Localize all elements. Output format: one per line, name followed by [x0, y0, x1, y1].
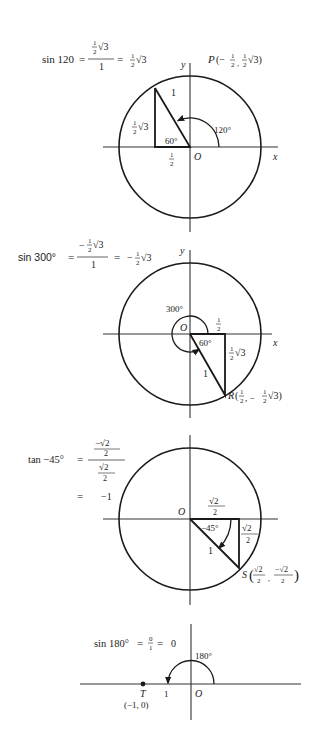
num-frac-top: 1	[93, 39, 97, 47]
angle-arc-120	[178, 118, 219, 147]
svg-text:=: =	[114, 251, 120, 263]
result-frac-bot: 2	[131, 61, 135, 69]
svg-text:1: 1	[230, 345, 234, 353]
svg-text:(−: (−	[216, 54, 225, 66]
svg-text:2: 2	[217, 325, 221, 333]
svg-text:=: =	[68, 251, 74, 263]
formula-eq2: =	[117, 53, 123, 65]
svg-text:,: ,	[237, 59, 239, 68]
result-rad: √3	[136, 54, 147, 65]
diagram-tan-45: tan −45° = −√2 2 √2 2 = −1 O √2 2 √2 2 −…	[28, 435, 299, 605]
angle-arc-neg45	[219, 519, 231, 548]
point-coords: (−1, 0)	[124, 700, 149, 710]
point-label-P: P (− 1 2 , 1 2 √3)	[207, 52, 262, 69]
svg-text:R: R	[227, 390, 234, 401]
svg-text:2: 2	[213, 508, 217, 517]
svg-text:√2: √2	[254, 565, 262, 574]
num-frac-bot: 2	[93, 48, 97, 56]
svg-text:2: 2	[263, 397, 267, 405]
inner-angle-label: 60°	[199, 338, 212, 348]
svg-text:2: 2	[281, 577, 285, 585]
svg-text:1: 1	[88, 237, 92, 245]
svg-text:=: =	[77, 453, 83, 465]
formula-sin180: sin 180° = 0 1 = 0	[94, 635, 176, 652]
result-frac-top: 1	[131, 52, 135, 60]
svg-text:√2: √2	[209, 496, 218, 506]
num-rad: √3	[98, 41, 109, 52]
formula-tan-45: tan −45° = −√2 2 √2 2 = −1	[28, 438, 125, 502]
formula-den: 1	[99, 61, 104, 72]
formula-sin120: sin 120 = 1 2 √3 1 = 1 2 √3	[42, 39, 147, 72]
y-axis-label: y	[180, 59, 186, 70]
svg-text:2: 2	[88, 246, 92, 254]
adjacent-label: 1 2	[169, 151, 174, 168]
svg-text:1: 1	[243, 52, 247, 60]
svg-text:−: −	[79, 240, 85, 251]
svg-text:2: 2	[136, 259, 140, 267]
unit-label: 1	[164, 689, 169, 699]
point-T-dot	[141, 682, 146, 687]
adjacent-label: √2 2	[208, 496, 225, 517]
opposite-label: √2 2	[241, 523, 258, 545]
opposite-label: 1 2 √3	[229, 345, 246, 362]
origin-label: O	[178, 506, 185, 517]
svg-text:0: 0	[149, 635, 153, 643]
formula-result: −1	[101, 491, 112, 502]
svg-text:2: 2	[243, 61, 247, 69]
hypotenuse-label: 1	[208, 545, 213, 556]
svg-text:√3: √3	[93, 239, 104, 250]
y-axis-label: y	[179, 245, 185, 256]
formula-lhs: sin 300°	[18, 251, 56, 263]
svg-text:1: 1	[240, 388, 244, 396]
hypotenuse-label: 1	[203, 368, 208, 379]
svg-text:√3: √3	[138, 121, 149, 132]
hypotenuse-label: 1	[171, 87, 176, 98]
formula-eq: =	[79, 53, 85, 65]
svg-text:1: 1	[217, 316, 221, 324]
origin-label: O	[180, 322, 187, 333]
svg-text:2: 2	[103, 474, 107, 483]
svg-text:−: −	[127, 252, 133, 263]
diagram-sin120: sin 120 = 1 2 √3 1 = 1 2 √3 P (− 1 2 , 1…	[42, 39, 278, 232]
svg-text:√3: √3	[235, 347, 246, 358]
formula-sin300: sin 300° = − 1 2 √3 1 = − 1 2 √3	[18, 237, 152, 270]
x-axis-label: x	[272, 337, 278, 348]
svg-text:S: S	[242, 569, 247, 580]
angle-label: 120°	[214, 125, 232, 135]
trig-diagrams: sin 120 = 1 2 √3 1 = 1 2 √3 P (− 1 2 , 1…	[0, 0, 317, 729]
x-axis-label: x	[272, 151, 278, 162]
angle-label: −45°	[201, 523, 219, 533]
svg-text:1: 1	[91, 259, 96, 270]
svg-text:=: =	[157, 637, 163, 649]
formula-lhs: sin 120	[42, 53, 75, 65]
svg-text:2: 2	[170, 160, 174, 168]
diagram-sin180: sin 180° = 0 1 = 0 180° T (−1, 0) 1 O	[80, 624, 301, 720]
svg-text:2: 2	[246, 536, 250, 545]
svg-text:1: 1	[149, 644, 153, 652]
angle-label: 300°	[166, 304, 184, 314]
svg-text:1: 1	[170, 151, 174, 159]
svg-text:−√2: −√2	[275, 565, 288, 574]
svg-text:2: 2	[240, 397, 244, 405]
svg-text:√2: √2	[242, 523, 251, 533]
point-name: T	[140, 688, 147, 699]
formula-lhs: sin 180°	[94, 638, 129, 649]
origin-label: O	[194, 151, 201, 162]
svg-text:1: 1	[133, 119, 137, 127]
svg-text:√3: √3	[141, 252, 152, 263]
formula-lhs: tan −45°	[28, 454, 64, 465]
point-label-R: R ( 1 2 , − 1 2 √3)	[227, 388, 282, 405]
svg-text:=: =	[77, 490, 83, 502]
svg-text:1: 1	[231, 52, 235, 60]
svg-text:1: 1	[263, 388, 267, 396]
origin-label: O	[195, 688, 202, 699]
svg-text:√3): √3)	[268, 390, 282, 402]
svg-text:√3): √3)	[248, 54, 262, 66]
svg-text:,: ,	[268, 574, 270, 583]
svg-text:2: 2	[257, 577, 261, 585]
svg-text:−√2: −√2	[95, 438, 110, 448]
opposite-label: 1 2 √3	[132, 119, 149, 136]
point-name: P	[207, 53, 215, 65]
point-label-S: S ( √2 2 , −√2 2 )	[242, 565, 299, 585]
inner-angle-label: 60°	[165, 136, 178, 146]
